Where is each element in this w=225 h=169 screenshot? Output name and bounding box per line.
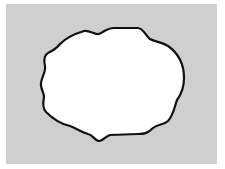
irregular-blob-shape: [41, 28, 184, 141]
figure-canvas: [0, 0, 225, 169]
